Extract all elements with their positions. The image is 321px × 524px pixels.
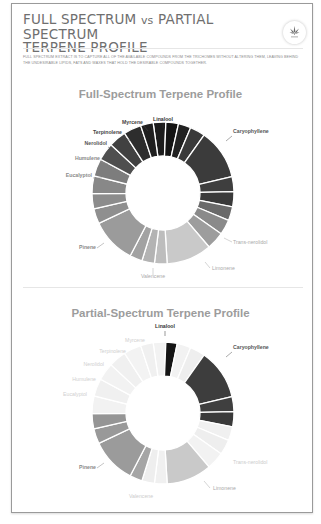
segment-label-nerolidol: Nerolidol [84,361,104,367]
partial-spectrum-donut-chart: LinaloolCaryophylleneMyrceneTerpinoleneN… [0,0,321,524]
segment-label-pinene: Pinene [79,464,96,470]
segment-label-terpinolene: Terpinolene [99,348,126,354]
segment-label-limonene: Limonene [213,485,236,491]
label-leader-line [97,463,104,468]
label-leader-line [226,352,232,357]
segment-label-myrcene: Myrcene [125,337,145,343]
segment-label-linalool: Linalool [155,323,175,329]
segment-label-humulene: Humulene [72,376,96,382]
segment-label-eucalyptol: Eucalyptol [63,391,87,397]
segment-label-caryophyllene: Caryophyllene [233,344,269,350]
label-leader-line [204,481,210,488]
segment-label-trans-nerolidol: Trans-nerolidol [233,459,267,465]
segment-label-valencene: Valencene [129,493,153,499]
